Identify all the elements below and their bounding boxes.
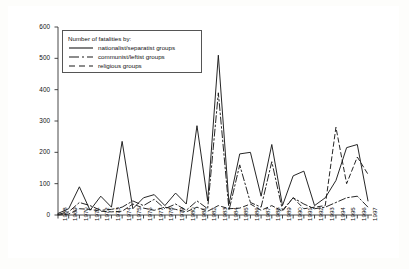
x-tick-label: 1993 <box>328 207 335 221</box>
legend-label-nationalist: nationalist/separatist groups <box>98 43 175 52</box>
x-tick-label: 1974 <box>125 207 132 221</box>
x-tick-label: 1991 <box>306 207 313 221</box>
x-tick-label: 1978 <box>167 207 174 221</box>
legend-label-communist: communist/leftist groups <box>98 52 165 61</box>
series-line <box>58 55 368 213</box>
x-tick-label: 1968 <box>61 207 68 221</box>
y-tick-label: 100 <box>28 180 50 187</box>
legend-label-religious: religious groups <box>98 61 142 70</box>
x-tick-label: 1992 <box>317 207 324 221</box>
x-tick-label: 1972 <box>103 207 110 221</box>
x-tick-label: 1985 <box>242 207 249 221</box>
x-tick-label: 1989 <box>285 207 292 221</box>
x-tick-label: 1970 <box>82 207 89 221</box>
x-tick-label: 1994 <box>339 207 346 221</box>
x-tick-label: 1997 <box>371 207 378 221</box>
x-tick-label: 1986 <box>253 207 260 221</box>
series-line <box>58 127 368 215</box>
series-line <box>58 93 368 215</box>
x-tick-label: 1979 <box>178 207 185 221</box>
x-tick-label: 1977 <box>157 207 164 221</box>
legend-entry-religious: religious groups <box>68 61 196 70</box>
y-tick-label: 400 <box>28 86 50 93</box>
x-tick-label: 1995 <box>349 207 356 221</box>
chart-legend: Number of fatalities by: nationalist/sep… <box>62 30 202 73</box>
legend-entry-nationalist: nationalist/separatist groups <box>68 43 196 52</box>
x-tick-label: 1969 <box>71 207 78 221</box>
x-tick-label: 1976 <box>146 207 153 221</box>
legend-swatch-dashdot-icon <box>68 54 94 60</box>
x-tick-label: 1983 <box>221 207 228 221</box>
x-tick-label: 1981 <box>200 207 207 221</box>
y-tick-label: 600 <box>28 23 50 30</box>
x-tick-label: 1988 <box>274 207 281 221</box>
legend-swatch-dashed-icon <box>68 63 94 69</box>
y-tick-label: 300 <box>28 117 50 124</box>
legend-entry-communist: communist/leftist groups <box>68 52 196 61</box>
chart-figure: Number of fatalities by: nationalist/sep… <box>0 0 409 269</box>
x-tick-label: 1996 <box>360 207 367 221</box>
y-tick-label: 500 <box>28 54 50 61</box>
x-tick-label: 1975 <box>135 207 142 221</box>
x-tick-label: 1971 <box>93 207 100 221</box>
y-tick-label: 0 <box>28 211 50 218</box>
legend-swatch-solid-icon <box>68 45 94 51</box>
x-tick-label: 1987 <box>264 207 271 221</box>
y-tick-label: 200 <box>28 148 50 155</box>
x-tick-label: 1982 <box>210 207 217 221</box>
x-tick-label: 1984 <box>232 207 239 221</box>
x-tick-label: 1980 <box>189 207 196 221</box>
legend-title: Number of fatalities by: <box>68 35 196 43</box>
x-tick-label: 1973 <box>114 207 121 221</box>
x-tick-label: 1990 <box>296 207 303 221</box>
